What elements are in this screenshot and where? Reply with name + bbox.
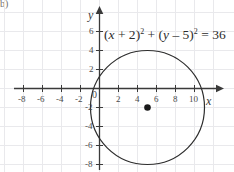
equation-rhs-value: 36: [212, 27, 226, 42]
coordinate-plane-svg: [0, 0, 234, 172]
origin-label: 0: [92, 90, 97, 100]
equation-plus-two: + 2: [115, 27, 136, 42]
y-tick-label-4: 4: [89, 46, 94, 55]
x-tick-label--2: -2: [75, 95, 83, 104]
x-tick-label-10: 10: [189, 95, 198, 104]
x-tick-label--8: -8: [18, 95, 26, 104]
y-tick-label--4: -4: [85, 122, 93, 131]
y-tick-label--2: -2: [85, 103, 93, 112]
x-axis: [14, 85, 224, 93]
equation-equals-sign: =: [198, 27, 212, 42]
x-axis-arrowhead: [216, 85, 224, 93]
x-tick-label-6: 6: [154, 95, 159, 104]
y-tick-label--8: -8: [85, 160, 93, 169]
x-tick-label--6: -6: [37, 95, 45, 104]
y-tick-label-2: 2: [89, 65, 94, 74]
equation-annotation: (x + 2)2 + (y – 5)2 = 36: [104, 28, 226, 43]
x-axis-label: x: [206, 95, 211, 107]
x-tick-label--4: -4: [56, 95, 64, 104]
equation-plus-operator: +: [144, 27, 158, 42]
equation-minus-five: – 5: [169, 27, 189, 42]
y-tick-label--6: -6: [85, 141, 93, 150]
y-axis-arrowhead: [96, 6, 104, 14]
circle-center-point: [144, 104, 151, 111]
x-tick-label-4: 4: [135, 95, 140, 104]
x-tick-label-2: 2: [116, 95, 121, 104]
y-tick-label-6: 6: [89, 27, 94, 36]
x-tick-label-8: 8: [173, 95, 178, 104]
gridlines-vertical: [5, 0, 214, 172]
circle-graph-figure: b): [0, 0, 234, 172]
y-axis-label: y: [88, 9, 93, 21]
